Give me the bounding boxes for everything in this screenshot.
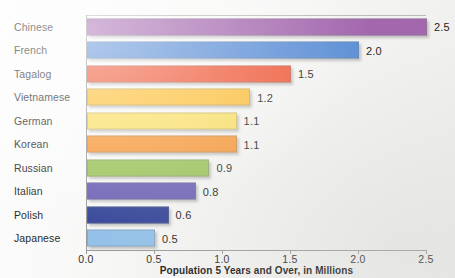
- bar-value-label: 1.1: [244, 115, 260, 127]
- bar-value-label: 2.5: [434, 21, 450, 33]
- bar-row: Vietnamese1.2: [0, 86, 455, 110]
- bar-with-value: 0.5: [87, 230, 178, 247]
- bar-with-value: 0.6: [87, 206, 192, 223]
- bar-row-list: Chinese2.5French2.0Tagalog1.5Vietnamese1…: [0, 15, 455, 250]
- x-axis-tick-label: 1.0: [214, 253, 230, 265]
- category-label: Tagalog: [0, 68, 78, 80]
- x-axis-tick-label: 0.5: [146, 253, 162, 265]
- category-label: Polish: [0, 209, 78, 221]
- x-axis-tick-label: 0.0: [78, 253, 94, 265]
- bar-with-value: 2.5: [87, 18, 450, 35]
- bar-value-label: 1.5: [298, 68, 314, 80]
- bar-korean: [87, 136, 237, 153]
- bar-value-label: 1.1: [244, 138, 260, 150]
- bar-with-value: 0.8: [87, 183, 219, 200]
- bar-row: Polish0.6: [0, 203, 455, 227]
- x-axis-title: Population 5 Years and Over, in Millions: [86, 265, 427, 276]
- bar-row: Russian0.9: [0, 156, 455, 180]
- x-axis-tick-label: 2.0: [350, 253, 366, 265]
- bar-value-label: 0.6: [176, 209, 192, 221]
- plot-area: Chinese2.5French2.0Tagalog1.5Vietnamese1…: [0, 0, 455, 278]
- bar-value-label: 1.2: [257, 91, 273, 103]
- bar-row: Italian0.8: [0, 180, 455, 204]
- bar-vietnamese: [87, 89, 250, 106]
- bar-tagalog: [87, 65, 291, 82]
- bar-with-value: 1.1: [87, 112, 260, 129]
- bar-with-value: 2.0: [87, 42, 382, 59]
- bar-french: [87, 42, 359, 59]
- bar-value-label: 0.5: [162, 232, 178, 244]
- category-label: Korean: [0, 138, 78, 150]
- x-axis-tick-label: 1.5: [282, 253, 298, 265]
- category-label: German: [0, 115, 78, 127]
- bar-russian: [87, 159, 209, 176]
- bar-value-label: 2.0: [366, 44, 382, 56]
- bar-with-value: 1.1: [87, 136, 260, 153]
- bar-with-value: 0.9: [87, 159, 232, 176]
- bar-value-label: 0.9: [216, 162, 232, 174]
- category-label: Russian: [0, 162, 78, 174]
- bar-row: Tagalog1.5: [0, 62, 455, 86]
- category-label: Japanese: [0, 232, 78, 244]
- bar-with-value: 1.2: [87, 89, 273, 106]
- category-label: Italian: [0, 185, 78, 197]
- bar-polish: [87, 206, 169, 223]
- bar-row: German1.1: [0, 109, 455, 133]
- category-label: French: [0, 44, 78, 56]
- bar-chinese: [87, 18, 427, 35]
- bar-value-label: 0.8: [203, 185, 219, 197]
- bar-row: Chinese2.5: [0, 15, 455, 39]
- bar-row: Korean1.1: [0, 133, 455, 157]
- bar-row: Japanese0.5: [0, 227, 455, 251]
- bar-italian: [87, 183, 196, 200]
- bar-with-value: 1.5: [87, 65, 314, 82]
- x-axis-tick-label: 2.5: [418, 253, 434, 265]
- bar-japanese: [87, 230, 155, 247]
- bar-chart: Chinese2.5French2.0Tagalog1.5Vietnamese1…: [0, 0, 455, 278]
- bar-german: [87, 112, 237, 129]
- category-label: Chinese: [0, 21, 78, 33]
- bar-row: French2.0: [0, 39, 455, 63]
- category-label: Vietnamese: [0, 91, 78, 103]
